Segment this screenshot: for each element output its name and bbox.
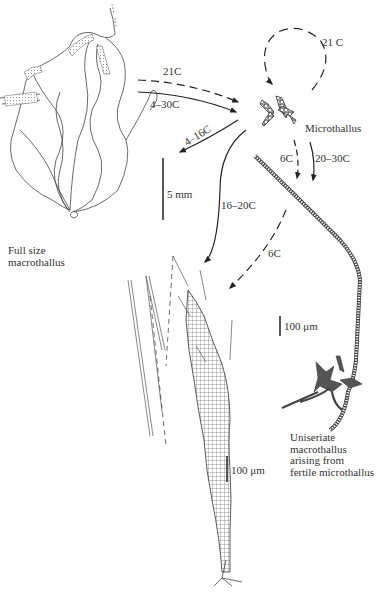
- macrothallus-fertile-regions: [4, 34, 110, 106]
- scale-bar-100um-upper-label: 100 μm: [284, 320, 318, 332]
- full-size-macrothallus-drawing: [0, 8, 157, 218]
- arrow-label-6c-down: 6C: [280, 152, 293, 164]
- life-cycle-figure: [0, 0, 382, 595]
- arrow-label-6c: 6C: [268, 247, 281, 259]
- microthallus-drawing: [260, 96, 296, 126]
- arrow-label-21c: 21C: [163, 65, 181, 77]
- arrow-label-20-30c: 20–30C: [315, 152, 350, 164]
- label-microthallus: Microthallus: [305, 122, 361, 134]
- arrow-label-16-20c: 16–20C: [221, 199, 256, 211]
- label-uniseriate: Uniseriate macrothallus arising from fer…: [290, 432, 374, 478]
- arrow-label-4-30c: 4–30C: [150, 98, 179, 110]
- young-macrothallus-drawing: [186, 290, 231, 572]
- arrow-label-loop-21c: 21 C: [322, 36, 343, 48]
- scale-bar-100um-lower-label: 100 μm: [231, 464, 265, 476]
- label-full-size: Full size macrothallus: [8, 244, 65, 268]
- scale-bar-5mm-label: 5 mm: [167, 188, 192, 200]
